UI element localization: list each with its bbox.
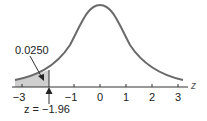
- tick-label: 0: [97, 91, 103, 103]
- tick-label: −1: [65, 91, 78, 103]
- tick-label: −3: [13, 91, 26, 103]
- tick-label: 3: [175, 91, 181, 103]
- tick-label: 2: [149, 91, 155, 103]
- axis-var-label: z: [191, 80, 196, 91]
- density-curve: [15, 5, 183, 80]
- z-value-label: z = −1.96: [24, 103, 70, 115]
- tick-label: 1: [123, 91, 129, 103]
- area-label: 0.0250: [15, 44, 49, 56]
